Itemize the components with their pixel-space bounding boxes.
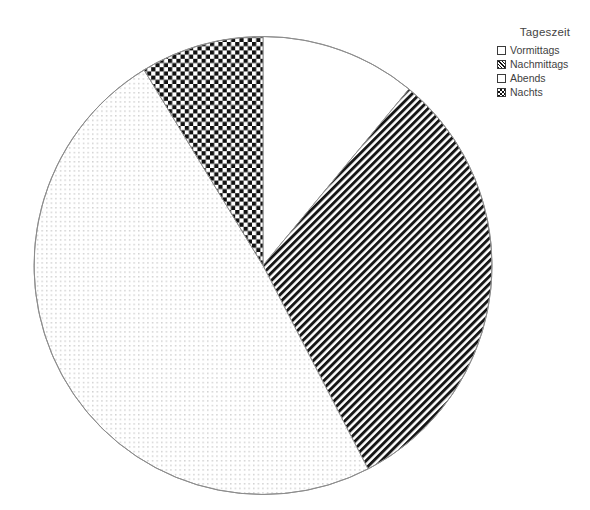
legend-items-list: Vormittags Nachmittags Abends Nachts	[492, 43, 590, 99]
legend-swatch-nachts-icon	[497, 88, 506, 97]
legend-swatch-vormittags-icon	[497, 46, 506, 55]
legend-label-abends: Abends	[510, 72, 546, 84]
legend-swatch-abends-icon	[497, 74, 506, 83]
legend: Tageszeit Vormittags Nachmittags Abends …	[492, 26, 590, 99]
legend-item-nachts[interactable]: Nachts	[492, 85, 590, 99]
pie-slice-group	[34, 37, 492, 495]
legend-item-vormittags[interactable]: Vormittags	[492, 43, 590, 57]
pie-chart-figure: Tageszeit Vormittags Nachmittags Abends …	[0, 0, 590, 510]
legend-title: Tageszeit	[500, 26, 590, 38]
legend-item-abends[interactable]: Abends	[492, 71, 590, 85]
legend-label-nachmittags: Nachmittags	[510, 58, 568, 70]
legend-swatch-nachmittags-icon	[497, 60, 506, 69]
legend-label-vormittags: Vormittags	[510, 44, 560, 56]
legend-item-nachmittags[interactable]: Nachmittags	[492, 57, 590, 71]
legend-label-nachts: Nachts	[510, 86, 543, 98]
